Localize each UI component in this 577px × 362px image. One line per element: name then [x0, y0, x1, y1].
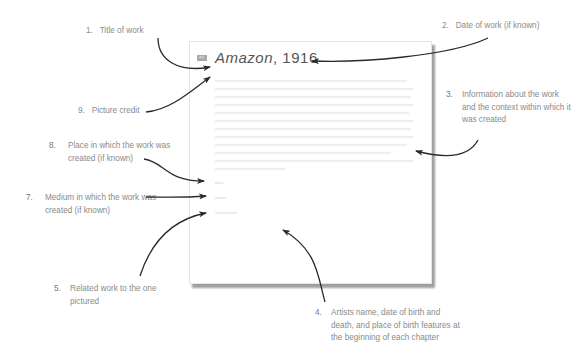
- arrow-4: [283, 230, 325, 302]
- arrow-5: [140, 213, 206, 276]
- arrow-7: [146, 196, 206, 197]
- arrow-8: [144, 159, 204, 181]
- arrow-9: [146, 77, 210, 112]
- callout-arrows: [0, 0, 577, 362]
- arrow-1: [158, 38, 210, 68]
- arrow-2: [312, 38, 488, 61]
- arrow-3: [416, 140, 478, 155]
